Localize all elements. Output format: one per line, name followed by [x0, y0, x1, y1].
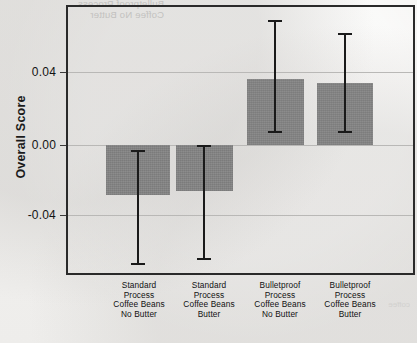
y-tick-label-1: 0.00 [4, 138, 56, 152]
errorbar-line-standard-no-butter [137, 150, 139, 264]
y-tick-label-0: 0.04 [4, 65, 56, 79]
errorbar-cap-upper-standard-butter [197, 145, 211, 147]
errorbar-cap-upper-standard-no-butter [131, 150, 145, 152]
gridline--0.04 [68, 215, 413, 216]
errorbar-line-bulletproof-no-butter [274, 20, 276, 132]
errorbar-cap-lower-bulletproof-no-butter [268, 131, 282, 133]
errorbar-line-standard-butter [203, 145, 205, 259]
errorbar-cap-upper-bulletproof-no-butter [268, 20, 282, 22]
errorbar-line-bulletproof-butter [344, 33, 346, 132]
bar-chart: Overall Score 0.04 0.00 -0.04 [0, 0, 417, 343]
x-tick-label-bulletproof-butter: Bulletproof Process Coffee Beans Butter [307, 281, 393, 319]
plot-area [66, 5, 415, 275]
y-tick-label-2: -0.04 [4, 208, 56, 222]
errorbar-cap-lower-standard-butter [197, 258, 211, 260]
y-axis-label: Overall Score [14, 77, 28, 197]
errorbar-cap-upper-bulletproof-butter [338, 33, 352, 35]
gridline-0.04 [68, 72, 413, 73]
errorbar-cap-lower-bulletproof-butter [338, 131, 352, 133]
errorbar-cap-lower-standard-no-butter [131, 263, 145, 265]
